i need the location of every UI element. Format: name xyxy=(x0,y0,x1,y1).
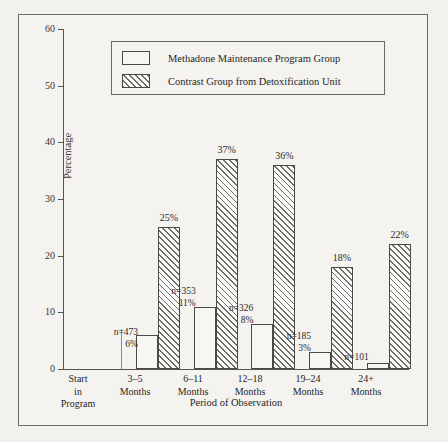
x-category-24-plus-months: 24+ Months xyxy=(337,373,395,398)
y-tick-label-30: 30 xyxy=(25,193,55,204)
x-axis-line xyxy=(63,369,409,370)
x-category-line1: Start xyxy=(49,373,107,386)
bar-contrast-6-11 xyxy=(216,159,238,369)
x-category-12-18-months: 12–18 Months xyxy=(221,373,279,398)
x-category-3-5-months: 3–5 Months xyxy=(106,373,164,398)
pct-label-methadone-12-18: 8% xyxy=(209,315,253,325)
n-label-3-5: n=473 xyxy=(94,327,138,337)
pct-label-contrast-19-24: 18% xyxy=(320,252,364,263)
n-label-19-24: n=185 xyxy=(267,331,311,341)
y-tick-50 xyxy=(58,86,63,87)
y-axis-line xyxy=(63,29,64,369)
y-axis-title: Percentage xyxy=(62,133,73,179)
pct-label-methadone-6-11: 11% xyxy=(152,298,196,308)
pct-label-methadone-19-24: 3% xyxy=(267,343,311,353)
n-label-6-11: n=353 xyxy=(152,286,196,296)
plot-area: 60 50 40 30 20 10 0 Percentage n=473 6% … xyxy=(63,29,409,369)
chart-figure: Methadone Maintenance Program Group Cont… xyxy=(18,14,428,426)
x-category-line1: 19–24 xyxy=(279,373,337,386)
x-category-line1: 3–5 xyxy=(106,373,164,386)
y-tick-label-60: 60 xyxy=(25,23,55,34)
y-tick-0 xyxy=(58,369,63,370)
y-tick-label-50: 50 xyxy=(25,80,55,91)
y-tick-label-20: 20 xyxy=(25,250,55,261)
x-category-line1: 6–11 xyxy=(164,373,222,386)
y-tick-20 xyxy=(58,256,63,257)
y-tick-30 xyxy=(58,199,63,200)
pct-label-contrast-24-plus: 22% xyxy=(378,229,422,240)
x-category-19-24-months: 19–24 Months xyxy=(279,373,337,398)
y-tick-60 xyxy=(58,29,63,30)
pct-label-contrast-12-18: 36% xyxy=(262,150,306,161)
n-label-12-18: n=326 xyxy=(209,303,253,313)
x-axis-title: Period of Observation xyxy=(63,397,409,408)
x-category-line1: 24+ xyxy=(337,373,395,386)
y-tick-label-40: 40 xyxy=(25,136,55,147)
y-tick-label-10: 10 xyxy=(25,306,55,317)
y-tick-10 xyxy=(58,312,63,313)
bar-contrast-24-plus xyxy=(389,244,411,369)
pct-label-methadone-3-5: 6% xyxy=(94,339,138,349)
pct-label-contrast-6-11: 37% xyxy=(205,144,249,155)
x-category-line1: 12–18 xyxy=(221,373,279,386)
bar-methadone-24-plus xyxy=(367,363,389,369)
n-label-24-plus: n=101 xyxy=(321,352,369,362)
pct-label-contrast-3-5: 25% xyxy=(147,212,191,223)
bar-methadone-3-5 xyxy=(136,335,158,369)
x-category-6-11-months: 6–11 Months xyxy=(164,373,222,398)
